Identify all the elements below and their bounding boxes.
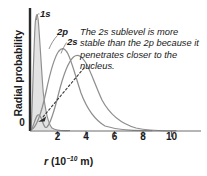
- x-axis-title-unit-close: m): [77, 155, 93, 167]
- x-tick-label-0: 0: [14, 118, 30, 128]
- x-tick-label-2: 2: [50, 132, 66, 142]
- x-tick-label-10: 10: [164, 132, 180, 142]
- x-axis-title: r (10−10 m): [44, 156, 93, 167]
- x-axis-title-exponent: −10: [66, 155, 77, 162]
- curve-label-2s: 2s: [67, 37, 78, 47]
- x-tick-label-4: 4: [78, 132, 94, 142]
- annotation-text: The 2s sublevel is more stable than the …: [80, 27, 202, 73]
- x-tick-label-6: 6: [107, 132, 123, 142]
- leader-line-2p: [49, 36, 58, 50]
- curve-label-1s: 1s: [40, 9, 51, 19]
- radial-probability-figure: Radial probability 0 2 4 6 8 10 r (10−10…: [0, 0, 207, 176]
- x-axis-title-unit-open: (10: [51, 155, 66, 167]
- y-axis-title: Radial probability: [13, 18, 24, 128]
- leader-line-2s: [61, 43, 67, 54]
- x-tick-label-8: 8: [135, 132, 151, 142]
